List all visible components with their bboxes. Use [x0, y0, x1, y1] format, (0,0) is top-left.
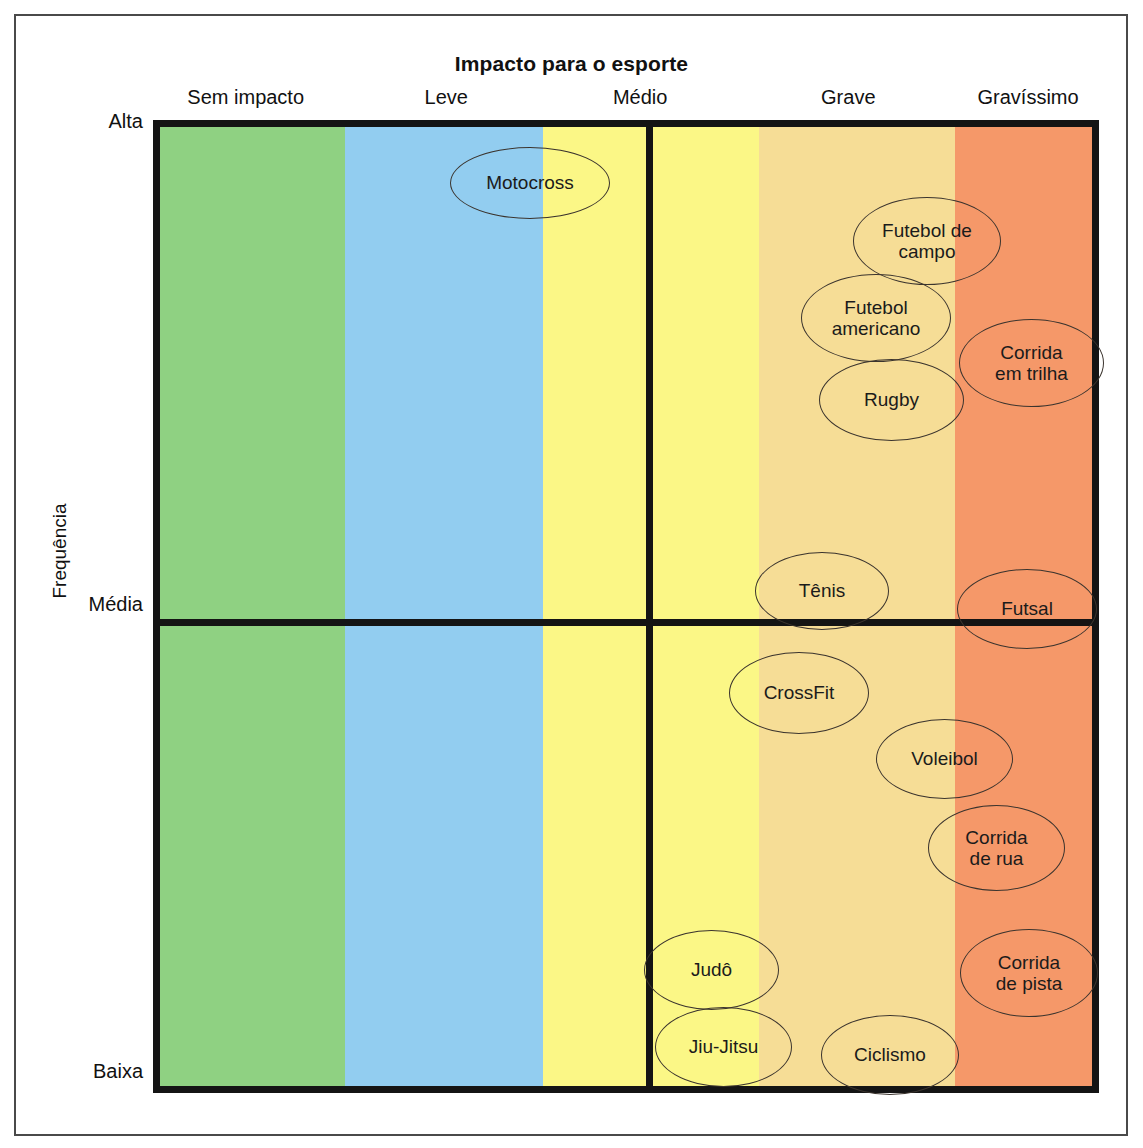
bubble-label: Ciclismo	[850, 1044, 930, 1065]
bubble-corrida-em-trilha: Corridaem trilha	[959, 319, 1104, 407]
bubble-jiu-jitsu: Jiu-Jitsu	[655, 1007, 792, 1087]
diagram-page: Impacto para o esporte Sem impactoLeveMé…	[0, 0, 1143, 1148]
x-axis-label-4: Gravíssimo	[977, 86, 1078, 109]
bubble-label: Corridade rua	[961, 827, 1031, 870]
bubble-label: Futebol decampo	[878, 220, 976, 263]
bubble-voleibol: Voleibol	[876, 719, 1013, 799]
x-axis-label-1: Leve	[425, 86, 468, 109]
bubble-futsal: Futsal	[957, 569, 1097, 649]
bubble-rugby: Rugby	[819, 359, 964, 441]
bubble-label: Judô	[687, 959, 736, 980]
bubble-tenis: Tênis	[755, 552, 889, 630]
bubble-label: Corridaem trilha	[991, 342, 1072, 385]
bubble-label: Motocross	[482, 172, 578, 193]
x-axis-label-2: Médio	[613, 86, 667, 109]
matrix-plot-area: MotocrossFutebol decampoFutebolamericano…	[153, 120, 1099, 1093]
vertical-quadrant-divider	[646, 127, 653, 1086]
bubble-label: Tênis	[795, 580, 849, 601]
y-axis-title: Frequência	[49, 461, 71, 641]
bubble-label: CrossFit	[760, 682, 839, 703]
bubble-ciclismo: Ciclismo	[821, 1015, 959, 1095]
band-sem-impacto	[160, 127, 345, 1086]
bubble-label: Voleibol	[907, 748, 982, 769]
bubble-motocross: Motocross	[450, 147, 610, 219]
bubble-label: Futsal	[997, 598, 1057, 619]
bubble-label: Jiu-Jitsu	[685, 1036, 763, 1057]
bubble-label: Rugby	[860, 389, 923, 410]
bubble-futebol-americano: Futebolamericano	[801, 274, 951, 362]
bubble-label: Corridade pista	[992, 952, 1067, 995]
y-axis-tick-2: Baixa	[93, 1060, 143, 1083]
bubble-crossfit: CrossFit	[729, 652, 869, 734]
y-axis-tick-0: Alta	[109, 110, 143, 133]
bubble-corrida-de-rua: Corridade rua	[928, 805, 1065, 891]
bubble-corrida-de-pista: Corridade pista	[960, 929, 1098, 1017]
band-medio-left	[543, 127, 652, 1086]
x-axis-label-0: Sem impacto	[187, 86, 304, 109]
y-axis-tick-1: Média	[89, 593, 143, 616]
bubble-judo: Judô	[644, 930, 779, 1010]
chart-title: Impacto para o esporte	[0, 52, 1143, 76]
band-leve	[345, 127, 544, 1086]
bubble-label: Futebolamericano	[828, 297, 925, 340]
bubble-futebol-de-campo: Futebol decampo	[853, 197, 1001, 285]
x-axis-label-3: Grave	[821, 86, 875, 109]
horizontal-quadrant-divider	[160, 619, 1092, 626]
x-axis-labels: Sem impactoLeveMédioGraveGravíssimo	[153, 86, 1099, 114]
